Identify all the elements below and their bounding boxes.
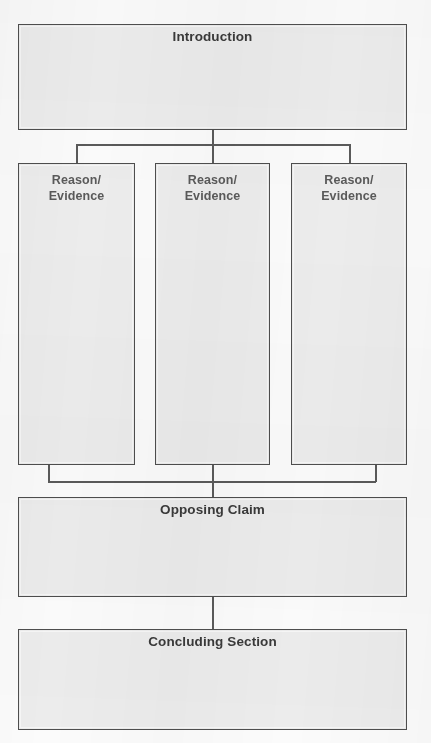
node-reason-3-label-line1: Reason/ — [291, 172, 407, 188]
node-reason-1[interactable] — [18, 163, 135, 465]
node-reason-3-label: Reason/ Evidence — [291, 172, 407, 204]
node-reason-1-label-line2: Evidence — [18, 188, 135, 204]
node-reason-2-label-line1: Reason/ — [155, 172, 270, 188]
node-reason-3[interactable] — [291, 163, 407, 465]
connector-drop-reason-1 — [76, 144, 78, 163]
node-reason-2-label: Reason/ Evidence — [155, 172, 270, 204]
node-reason-1-label: Reason/ Evidence — [18, 172, 135, 204]
connector-opposing-claim-down — [212, 465, 214, 498]
node-reason-1-label-line1: Reason/ — [18, 172, 135, 188]
node-introduction-label: Introduction — [18, 29, 407, 44]
connector-drop-reason-2 — [212, 144, 214, 163]
connector-rise-reason-1 — [48, 465, 50, 482]
diagram-canvas: Introduction Reason/ Evidence Reason/ Ev… — [0, 0, 431, 743]
connector-concluding-down — [212, 597, 214, 629]
node-concluding-section-label: Concluding Section — [18, 634, 407, 649]
node-reason-3-label-line2: Evidence — [291, 188, 407, 204]
connector-drop-reason-3 — [349, 144, 351, 163]
connector-rise-reason-3 — [375, 465, 377, 482]
node-opposing-claim-label: Opposing Claim — [18, 502, 407, 517]
node-reason-2-label-line2: Evidence — [155, 188, 270, 204]
node-reason-2[interactable] — [155, 163, 270, 465]
